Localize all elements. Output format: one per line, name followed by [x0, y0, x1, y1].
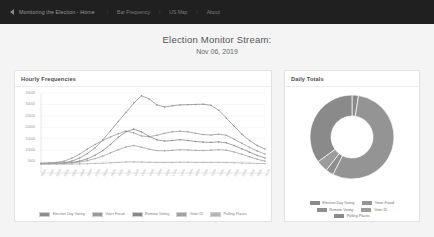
- donut-chart-svg: [306, 91, 398, 183]
- nav-separator-3: /: [196, 9, 197, 15]
- page-title-block: Election Monitor Stream: Nov 06, 2019: [0, 34, 434, 55]
- legend-swatch: [92, 212, 103, 218]
- legend-swatch: [39, 212, 50, 218]
- legend-swatch: [210, 212, 221, 218]
- legend-row: Remote VotingVoter ID: [317, 208, 388, 212]
- brand-label[interactable]: Monitoring the Election - Home: [19, 9, 95, 15]
- legend-item[interactable]: Polling Places: [210, 212, 247, 218]
- legend-swatch: [310, 201, 320, 205]
- nav-item-bar-frequency[interactable]: Bar Frequency: [117, 9, 150, 15]
- legend-label: Voter Fraud: [375, 201, 394, 205]
- legend-swatch: [334, 214, 344, 218]
- legend-item[interactable]: Remote Voting: [132, 212, 170, 218]
- legend-label: Polling Places: [347, 214, 370, 218]
- y-axis-tick-label: 5000: [15, 159, 35, 163]
- legend-item[interactable]: Voter ID: [361, 208, 387, 212]
- line-series: [41, 96, 265, 164]
- legend-label: Election Day Voting: [322, 201, 354, 205]
- line-chart-legend: Election Day VotingVoter FraudRemote Vot…: [15, 212, 271, 218]
- page-title: Election Monitor Stream:: [0, 34, 434, 45]
- legend-row: Election Day VotingVoter Fraud: [310, 201, 394, 205]
- y-axis-tick-label: 30000: [15, 102, 35, 106]
- line-series: [41, 146, 265, 164]
- legend-item[interactable]: Voter Fraud: [362, 201, 394, 205]
- legend-label: Polling Places: [224, 212, 247, 216]
- nav-item-about[interactable]: About: [207, 9, 220, 15]
- navbar: Monitoring the Election - Home / Bar Fre…: [0, 0, 434, 24]
- legend-label: Voter ID: [190, 212, 203, 216]
- legend-swatch: [176, 212, 187, 218]
- legend-item[interactable]: Voter Fraud: [92, 212, 125, 218]
- page-subtitle-date: Nov 06, 2019: [0, 48, 434, 55]
- legend-item[interactable]: Polling Places: [334, 214, 370, 218]
- y-axis-tick-label: 10000: [15, 148, 35, 152]
- navbar-links: / Bar Frequency / US Map / About: [107, 9, 220, 15]
- page-root: Monitoring the Election - Home / Bar Fre…: [0, 0, 434, 237]
- donut-chart: [285, 87, 419, 187]
- legend-item[interactable]: Election Day Voting: [39, 212, 84, 218]
- nav-separator-2: /: [159, 9, 160, 15]
- legend-swatch: [132, 212, 143, 218]
- line-chart: 500010000150002000025000300003500000:000…: [15, 87, 271, 195]
- donut-slice[interactable]: [310, 95, 352, 162]
- legend-label: Remote Voting: [329, 208, 353, 212]
- nav-item-us-map[interactable]: US Map: [169, 9, 187, 15]
- card-daily-totals: Daily Totals Election Day VotingVoter Fr…: [284, 70, 420, 222]
- legend-label: Election Day Voting: [53, 212, 85, 216]
- donut-chart-legend: Election Day VotingVoter FraudRemote Vot…: [285, 201, 419, 218]
- y-axis-tick-label: 15000: [15, 137, 35, 141]
- legend-row: Polling Places: [334, 214, 370, 218]
- chevron-left-icon: [10, 9, 14, 15]
- legend-label: Voter Fraud: [105, 212, 124, 216]
- legend-label: Voter ID: [374, 208, 387, 212]
- card-title-hourly: Hourly Frequencies: [15, 71, 271, 87]
- card-hourly-frequencies: Hourly Frequencies 500010000150002000025…: [14, 70, 272, 222]
- legend-item[interactable]: Election Day Voting: [310, 201, 354, 205]
- line-series: [41, 129, 265, 164]
- line-chart-svg: [15, 87, 271, 195]
- card-title-daily: Daily Totals: [285, 71, 419, 87]
- legend-label: Remote Voting: [145, 212, 169, 216]
- y-axis-tick-label: 25000: [15, 114, 35, 118]
- legend-swatch: [361, 208, 371, 212]
- y-axis-tick-label: 35000: [15, 91, 35, 95]
- legend-item[interactable]: Voter ID: [176, 212, 203, 218]
- y-axis-tick-label: 20000: [15, 125, 35, 129]
- nav-separator-1: /: [107, 9, 108, 15]
- navbar-brand-group[interactable]: Monitoring the Election - Home: [10, 9, 95, 15]
- legend-item[interactable]: Remote Voting: [317, 208, 354, 212]
- legend-swatch: [317, 208, 327, 212]
- legend-swatch: [362, 201, 372, 205]
- line-series: [41, 131, 265, 163]
